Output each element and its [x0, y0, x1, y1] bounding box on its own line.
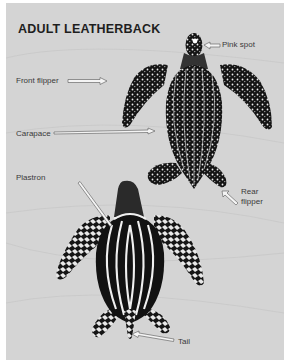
front-flipper-arrow	[68, 78, 107, 85]
ventral-turtle	[56, 181, 204, 339]
rear-flipper-arrow	[222, 191, 238, 205]
carapace-arrow	[54, 128, 155, 134]
label-tail: Tail	[178, 337, 190, 346]
label-front-flipper: Front flipper	[16, 76, 59, 85]
label-carapace: Carapace	[16, 129, 51, 138]
dorsal-turtle	[122, 33, 272, 189]
label-plastron: Plastron	[16, 173, 45, 182]
turtle-illustrations	[6, 3, 284, 360]
diagram-panel: ADULT LEATHERBACK	[6, 3, 284, 360]
label-pink-spot: Pink spot	[222, 40, 255, 49]
pink-spot-arrow	[204, 42, 220, 49]
label-rear-flipper-line1: Rear	[241, 187, 258, 196]
label-rear-flipper-line2: flipper	[241, 197, 263, 206]
pink-spot-marker	[193, 39, 198, 44]
